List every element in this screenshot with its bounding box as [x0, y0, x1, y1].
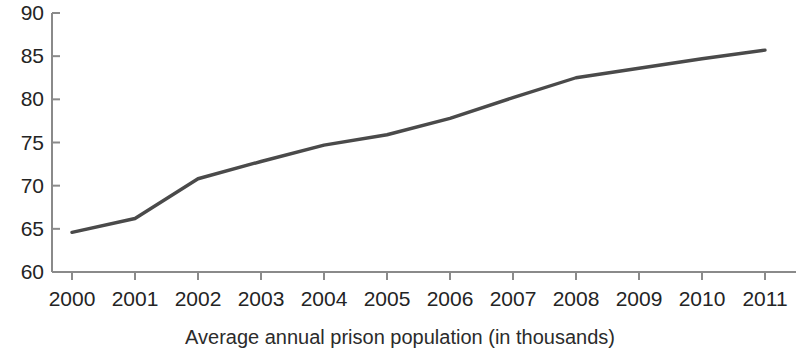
x-axis-tick-label: 2005: [364, 287, 411, 310]
x-axis-tick-label: 2008: [553, 287, 600, 310]
x-axis-tick-labels: 2000200120022003200420052006200720082009…: [49, 287, 788, 310]
x-axis-tick-label: 2003: [238, 287, 285, 310]
x-axis-tick-label: 2004: [301, 287, 348, 310]
y-axis-tick-label: 65: [21, 217, 44, 240]
x-axis-tick-label: 2007: [490, 287, 537, 310]
y-axis-tick-label: 75: [21, 131, 44, 154]
y-axis-tick-label: 85: [21, 44, 44, 67]
x-axis-tick-label: 2001: [112, 287, 159, 310]
x-axis-tick-label: 2011: [742, 287, 787, 310]
y-axis-tick-label: 90: [21, 1, 44, 24]
chart-container: 60657075808590 2000200120022003200420052…: [0, 0, 796, 351]
line-chart-plot: 60657075808590 2000200120022003200420052…: [0, 0, 796, 351]
x-axis-title: Average annual prison population (in tho…: [185, 326, 615, 348]
x-axis-tick-label: 2002: [175, 287, 222, 310]
x-axis-tick-label: 2010: [679, 287, 726, 310]
x-axis-tick-label: 2006: [427, 287, 474, 310]
y-axis-tick-label: 80: [21, 87, 44, 110]
data-series-group: [72, 50, 765, 232]
y-axis-tick-labels: 60657075808590: [21, 1, 44, 283]
data-series-line: [72, 50, 765, 232]
y-axis-tick-label: 70: [21, 174, 44, 197]
x-axis-tick-label: 2009: [616, 287, 663, 310]
x-axis-tick-label: 2000: [49, 287, 96, 310]
chart-axes: [52, 13, 796, 280]
y-axis-tick-label: 60: [21, 260, 44, 283]
